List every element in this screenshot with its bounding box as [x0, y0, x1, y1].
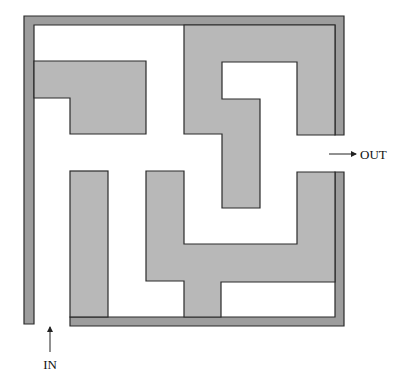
block-left-column: [70, 171, 108, 317]
exit-label: OUT: [360, 147, 387, 162]
exit-marker: OUT: [329, 147, 387, 162]
maze-diagram: OUT IN: [0, 0, 410, 387]
maze-blocks: [34, 25, 335, 317]
entrance-label: IN: [43, 357, 57, 372]
block-top-left: [34, 61, 146, 134]
entrance-marker: IN: [43, 327, 57, 372]
